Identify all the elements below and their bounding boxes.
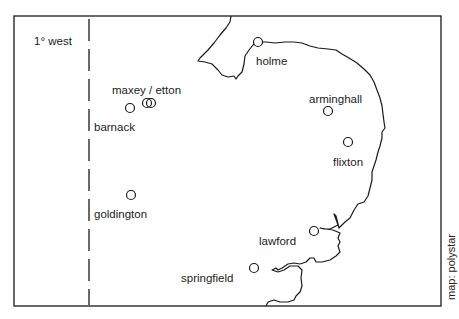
- site-label-holme: holme: [256, 55, 287, 67]
- meridian-label: 1° west: [34, 35, 73, 47]
- site-label-lawford: lawford: [259, 235, 296, 247]
- site-marker-goldington[interactable]: [127, 191, 136, 200]
- site-marker-arminghall[interactable]: [324, 107, 333, 116]
- site-labels: holme maxey / etton barnack arminghall f…: [94, 55, 363, 284]
- site-label-springfield: springfield: [181, 272, 233, 284]
- site-marker-springfield[interactable]: [250, 264, 259, 273]
- site-map: 1° west holme maxey / etton barnack armi…: [0, 0, 459, 319]
- site-label-goldington: goldington: [94, 208, 147, 220]
- site-marker-barnack[interactable]: [126, 104, 135, 113]
- site-marker-holme[interactable]: [254, 38, 263, 47]
- map-frame: [14, 16, 441, 306]
- site-label-arminghall: arminghall: [309, 93, 362, 105]
- site-markers: [126, 38, 353, 273]
- site-label-maxey-etton: maxey / etton: [112, 84, 181, 96]
- site-marker-flixton[interactable]: [344, 138, 353, 147]
- site-label-flixton: flixton: [333, 156, 363, 168]
- site-label-barnack: barnack: [94, 121, 135, 133]
- map-credit: map: polystar: [445, 234, 457, 300]
- site-marker-lawford[interactable]: [310, 227, 319, 236]
